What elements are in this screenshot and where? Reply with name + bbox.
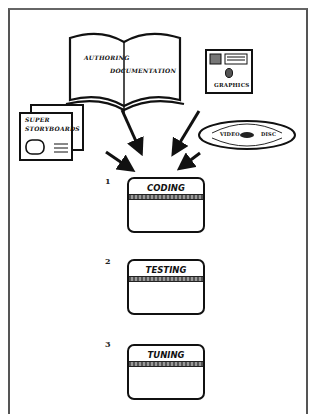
videodisc-label-right: DISC [261,131,276,137]
stage-band [129,361,203,367]
stage-band [129,276,203,282]
graphics-label: GRAPHICS [214,82,249,88]
storyboards-label-line2: STORYBOARDS [25,125,80,132]
stage-coding: CODING [127,177,205,233]
videodisc-label-left: VIDEO [220,131,240,137]
stage-number-2: 2 [105,256,111,266]
stage-title: CODING [129,183,203,193]
stage-testing: TESTING [127,259,205,315]
stage-number-1: 1 [105,176,111,186]
book-label-line2: DOCUMENTATION [110,67,176,74]
flow-arrows [106,110,200,167]
stage-tuning: TUNING [127,344,205,400]
book-label-line1: AUTHORING [84,54,129,61]
stage-title: TUNING [129,350,203,360]
videodisc-icon [199,121,295,149]
storyboards-label-line1: SUPER [25,116,50,123]
storyboards-icon [20,105,83,160]
stage-number-3: 3 [105,339,111,349]
stage-title: TESTING [129,265,203,275]
stage-band [129,194,203,200]
